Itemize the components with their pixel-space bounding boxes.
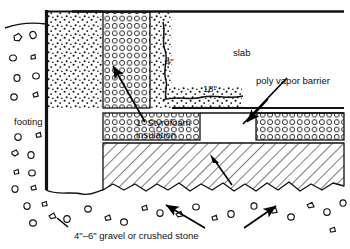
label-dim-18in: 18"	[203, 83, 217, 94]
label-poly-vapor-barrier: poly vapor barrier	[256, 75, 330, 86]
diagram-canvas: footing slab poly vapor barrier 4" 18" 1…	[0, 0, 350, 249]
undisturbed-soil-line	[46, 190, 103, 194]
exterior-grade-line	[5, 23, 46, 28]
label-styrofoam-line2: insulation	[136, 129, 176, 140]
horizontal-styrofoam-insulation-right	[256, 113, 344, 140]
label-slab: slab	[233, 47, 250, 58]
gravel-base-hatched-region	[103, 143, 344, 191]
foundation-detail-diagram: footing slab poly vapor barrier 4" 18" 1…	[0, 0, 350, 249]
leader-to-gravel-right	[244, 206, 276, 228]
vertical-styrofoam-insulation	[103, 12, 150, 108]
label-footing: footing	[14, 116, 43, 127]
label-gravel-caption: 4"–6" gravel or crushed stone	[74, 230, 199, 241]
label-dim-4in: 4"	[165, 56, 174, 67]
label-styrofoam-line1: 1" Styrofoam	[136, 117, 191, 128]
